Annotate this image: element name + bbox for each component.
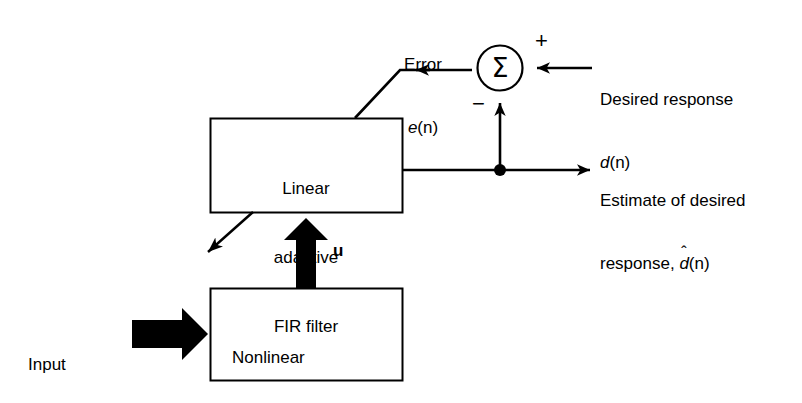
estimate-label-line-2: response, ˆd(n) bbox=[600, 253, 800, 274]
signal-u-label: u bbox=[333, 240, 343, 261]
estimate-label-prefix: response, bbox=[600, 254, 679, 273]
nonlinear-volterra-state-expander-label: Nonlinear Volterra state expander bbox=[232, 300, 408, 403]
estimate-label-line-1: Estimate of desired bbox=[600, 190, 800, 211]
error-symbol-variable: e bbox=[408, 118, 417, 137]
input-vector-label: Input vector x bbox=[28, 312, 148, 403]
estimate-symbol-variable-wrap: ˆd bbox=[679, 253, 688, 274]
estimate-symbol-argument: (n) bbox=[689, 254, 710, 273]
sigma-symbol: Σ bbox=[480, 54, 520, 81]
estimate-symbol-hat: ˆ bbox=[681, 244, 686, 260]
input-label-line-1: Input bbox=[28, 354, 148, 375]
plus-sign: + bbox=[535, 30, 548, 52]
desired-response-title: Desired response bbox=[600, 89, 800, 110]
error-label: Error e(n) bbox=[368, 12, 478, 180]
error-label-title: Error bbox=[368, 54, 478, 75]
error-label-symbol: e(n) bbox=[368, 117, 478, 138]
error-symbol-argument: (n) bbox=[417, 118, 438, 137]
filter-label-line-1: Linear bbox=[210, 177, 402, 200]
filter-label-line-2: adaptive bbox=[210, 246, 402, 269]
volterra-label-line-1: Nonlinear bbox=[232, 346, 408, 369]
block-diagram: Linear adaptive FIR filter Nonlinear Vol… bbox=[0, 0, 802, 403]
junction-node-dot bbox=[494, 164, 506, 176]
estimate-of-desired-response-label: Estimate of desired response, ˆd(n) bbox=[600, 148, 800, 316]
